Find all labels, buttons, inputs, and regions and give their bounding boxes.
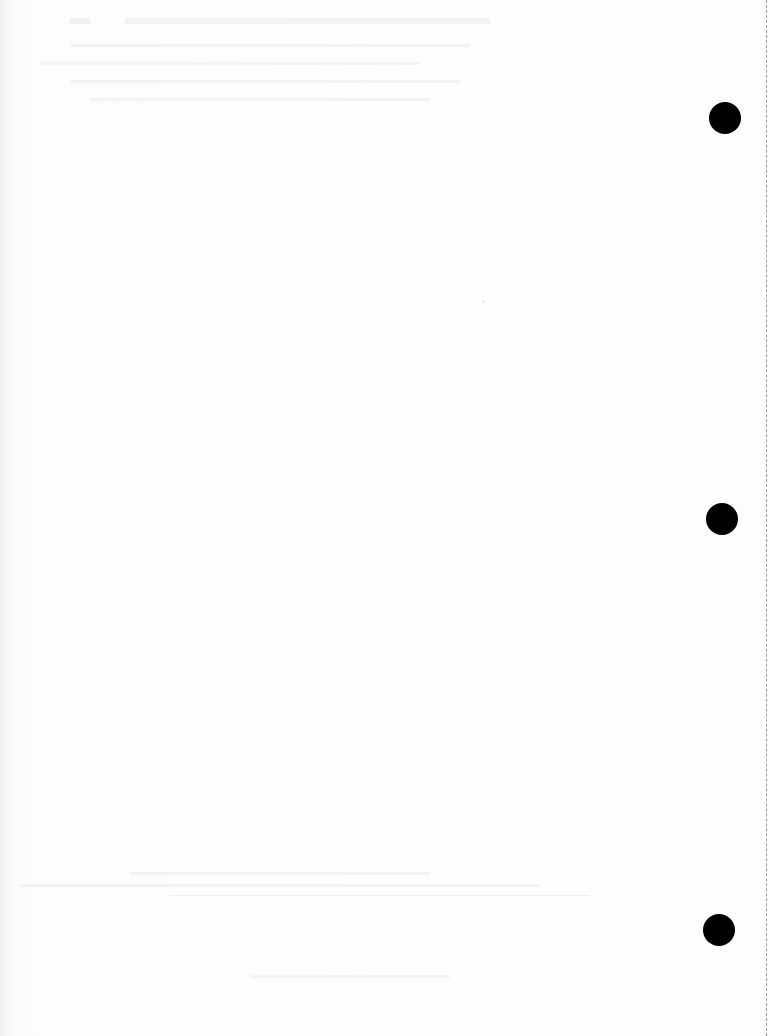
scanned-page (0, 0, 770, 1036)
bleedthrough-line (20, 884, 540, 887)
bleedthrough-line (70, 80, 460, 83)
punch-hole-middle (706, 503, 738, 535)
speck (482, 300, 485, 303)
bleedthrough-line (70, 44, 470, 47)
faint-header-bleedthrough (70, 18, 490, 24)
punch-hole-top (709, 102, 741, 134)
bleedthrough-line (250, 975, 450, 978)
footer-rule (170, 895, 590, 896)
punch-hole-bottom (703, 914, 735, 946)
bleedthrough-line (130, 872, 430, 875)
perforation-edge (766, 0, 767, 1036)
bleedthrough-line (90, 98, 430, 101)
bleedthrough-line (40, 62, 420, 65)
